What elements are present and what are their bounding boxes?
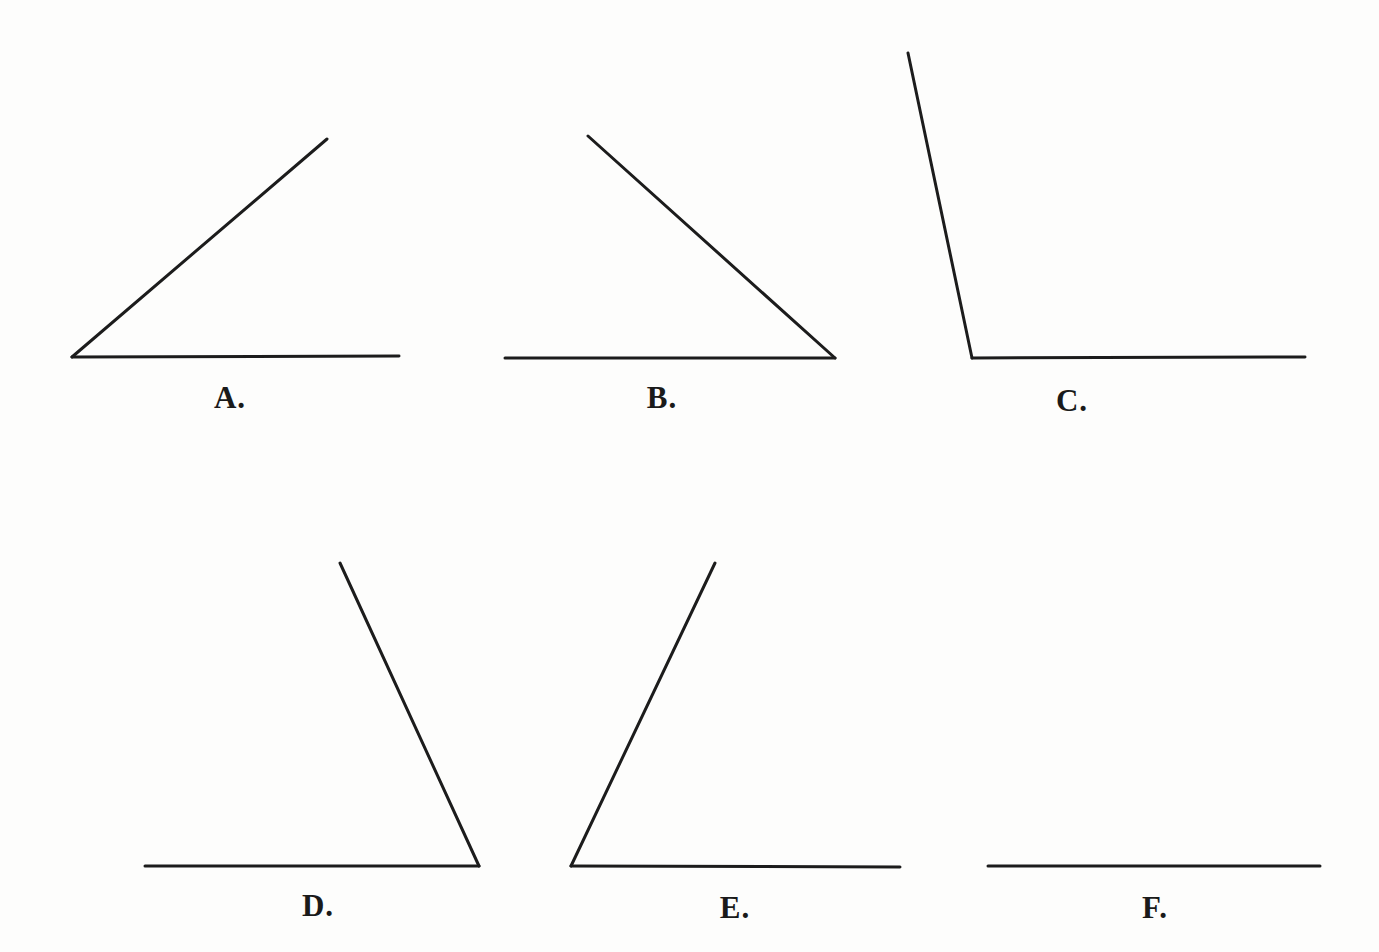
figure-A-ray-1 xyxy=(72,356,399,357)
angle-figure-E: E. xyxy=(571,563,900,925)
figure-C-ray-2 xyxy=(908,53,972,358)
worksheet-page: A.B.C.D.E.F. xyxy=(0,0,1379,952)
figure-E-ray-1 xyxy=(571,866,900,867)
angle-figure-D: D. xyxy=(145,563,479,923)
figure-A-ray-2 xyxy=(72,139,327,357)
angle-figure-F: F. xyxy=(988,866,1320,925)
angle-figure-A: A. xyxy=(72,139,399,415)
figure-C-ray-1 xyxy=(972,357,1305,358)
figure-A-label: A. xyxy=(214,380,246,415)
figure-C-label: C. xyxy=(1056,383,1088,418)
figure-E-ray-2 xyxy=(571,563,715,866)
figure-B-label: B. xyxy=(647,380,677,415)
figure-D-ray-2 xyxy=(340,563,479,866)
figure-B-ray-2 xyxy=(588,136,835,358)
angle-figure-B: B. xyxy=(505,136,835,415)
angle-figure-C: C. xyxy=(908,53,1305,418)
angle-figures-canvas: A.B.C.D.E.F. xyxy=(0,0,1379,952)
figure-E-label: E. xyxy=(720,890,750,925)
figure-D-label: D. xyxy=(302,888,334,923)
figure-F-label: F. xyxy=(1142,890,1168,925)
